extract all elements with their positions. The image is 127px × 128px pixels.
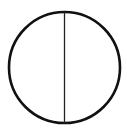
diagram-canvas xyxy=(0,0,127,128)
